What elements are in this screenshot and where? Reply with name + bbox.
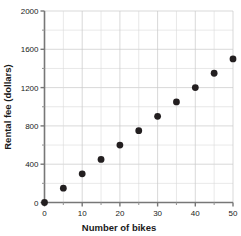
- data-point-marker: [79, 170, 86, 177]
- chart-canvas: 0400800120016002000 01020304050 Number o…: [0, 0, 241, 236]
- data-point-marker: [173, 99, 180, 106]
- data-point-marker: [60, 185, 67, 192]
- scatter-chart-figure: 0400800120016002000 01020304050 Number o…: [0, 0, 241, 236]
- y-axis-title: Rental fee (dollars): [2, 64, 13, 150]
- data-point-marker: [211, 70, 218, 77]
- y-axis-tick-label: 800: [25, 122, 39, 131]
- data-point-marker: [98, 156, 105, 163]
- data-point-marker: [230, 55, 237, 62]
- x-axis-tick-label: 10: [78, 209, 87, 218]
- y-axis-tick-label: 1600: [21, 45, 39, 54]
- y-axis-tick-label: 2000: [21, 7, 39, 16]
- data-point-marker: [117, 142, 124, 149]
- y-axis-tick-labels-group: 0400800120016002000: [21, 7, 39, 208]
- x-axis-title: Number of bikes: [82, 222, 156, 233]
- data-point-marker: [135, 127, 142, 134]
- x-axis-tick-label: 40: [191, 209, 200, 218]
- y-axis-tick-label: 1200: [21, 84, 39, 93]
- data-point-marker: [154, 113, 161, 120]
- x-axis-tick-label: 30: [153, 209, 162, 218]
- x-axis-tick-label: 0: [42, 209, 47, 218]
- y-axis-tick-label: 0: [34, 199, 39, 208]
- data-point-marker: [192, 84, 199, 91]
- x-axis-tick-label: 20: [115, 209, 124, 218]
- x-axis-tick-labels-group: 01020304050: [42, 209, 238, 218]
- x-axis-tick-label: 50: [229, 209, 238, 218]
- y-axis-tick-label: 400: [25, 160, 39, 169]
- data-point-marker: [41, 199, 48, 206]
